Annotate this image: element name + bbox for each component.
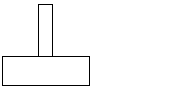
vertical-post-rectangle — [38, 4, 53, 57]
horizontal-base-rectangle — [2, 56, 90, 86]
diagram-canvas — [0, 0, 174, 93]
